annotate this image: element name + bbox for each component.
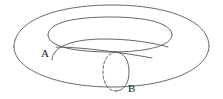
cycle-a-curve-group xyxy=(52,39,168,60)
cycle-b-back-arc-dashed xyxy=(103,52,116,91)
hole-upper-arc xyxy=(48,17,172,35)
cycle-b-label: B xyxy=(128,82,135,94)
torus-diagram-svg: A B xyxy=(0,0,223,99)
torus-figure: A B xyxy=(0,0,223,99)
outer-rim-top-arc xyxy=(14,5,209,47)
cycle-b-circle-group xyxy=(103,52,129,91)
cycle-a-label: A xyxy=(41,47,49,59)
inner-hole-group xyxy=(48,17,172,52)
cycle-a-curve-left xyxy=(52,39,168,60)
